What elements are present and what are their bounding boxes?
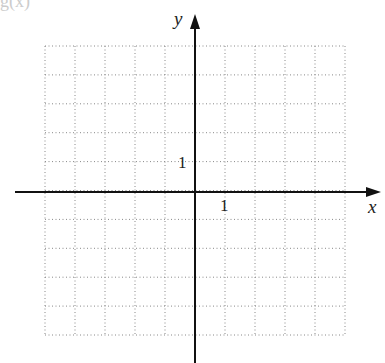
x-tick-label: 1 [220,196,229,216]
y-axis-label: y [174,8,182,30]
y-tick-label: 1 [178,153,187,173]
x-axis-label: x [368,196,376,218]
coordinate-grid [0,0,385,363]
y-axis-arrow-icon [190,14,200,29]
